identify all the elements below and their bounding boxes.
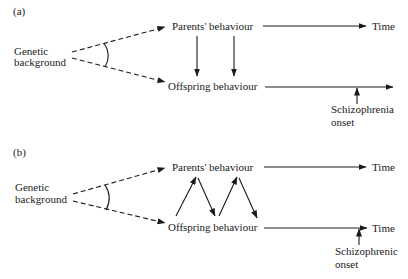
parents-to-offspring-arrow <box>239 178 257 218</box>
offspring-to-parents-arrow <box>176 177 196 216</box>
dashed-arrow-to-parents <box>72 27 165 52</box>
dashed-arrow-to-offspring <box>73 201 165 223</box>
genetic-background-label: background <box>14 56 66 68</box>
panel-b: (b) Genetic background Parents' behaviou… <box>13 146 398 270</box>
offspring-behaviour-label: Offspring behaviour <box>168 80 258 92</box>
genetic-background-label: background <box>15 193 67 205</box>
panel-label: (a) <box>13 5 26 18</box>
onset-label: onset <box>335 258 358 270</box>
diagram: (a) Genetic background Parents' behaviou… <box>0 0 408 279</box>
parents-behaviour-label: Parents' behaviour <box>172 20 253 32</box>
dashed-arrow-to-parents <box>73 168 165 194</box>
time-label-bottom: Time <box>372 222 395 234</box>
panel-a: (a) Genetic background Parents' behaviou… <box>13 5 395 128</box>
offspring-to-parents-arrow <box>219 177 237 216</box>
onset-label: onset <box>331 116 354 128</box>
time-label-top: Time <box>372 161 395 173</box>
dashed-arrow-to-offspring <box>72 58 165 82</box>
time-label-top: Time <box>372 20 395 32</box>
parents-to-offspring-arrow <box>198 178 215 216</box>
angle-arc <box>105 185 109 210</box>
genetic-background-label: Genetic <box>15 181 49 193</box>
onset-label: Schizophrenia <box>331 103 394 115</box>
angle-arc <box>104 43 108 67</box>
panel-label: (b) <box>13 146 26 159</box>
parents-behaviour-label: Parents' behaviour <box>172 161 253 173</box>
offspring-behaviour-label: Offspring behaviour <box>168 221 258 233</box>
onset-label: Schizophrenic <box>335 245 398 257</box>
